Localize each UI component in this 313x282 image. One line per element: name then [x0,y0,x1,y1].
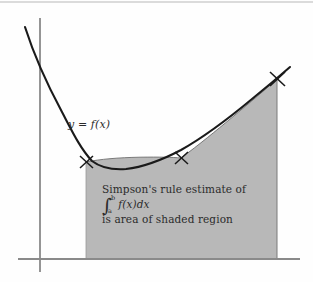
caption-block: Simpson's rule estimate of ∫ b a f(x)dx … [102,183,246,226]
integral-upper-limit: b [111,195,115,202]
curve-label-text: y = f(x) [68,118,110,131]
caption-line-1: Simpson's rule estimate of [102,183,246,197]
integrand-expression: f(x)dx [118,198,149,212]
simpsons-rule-figure: y = f(x) Simpson's rule estimate of ∫ b … [0,0,313,282]
caption-integral-line: ∫ b a f(x)dx [102,197,246,213]
caption-line-3: is area of shaded region [102,213,246,227]
integral-limits: b a [110,198,114,212]
curve-label: y = f(x) [68,118,110,132]
integral-lower-limit: a [108,208,112,215]
figure-canvas [0,0,313,282]
